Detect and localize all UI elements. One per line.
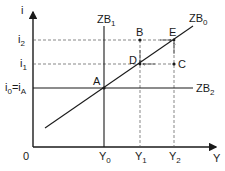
point-e [173,39,176,42]
tick-i0-ia: i0=iA [5,81,27,96]
zb0-curve [45,26,193,128]
label-e: E [169,26,176,38]
is-lm-diagram: i Y 0 i2 i1 i0=iA Y0 Y1 Y2 ZB1 ZB0 ZB2 A… [0,0,225,171]
point-d [139,63,142,66]
tick-i1: i1 [20,57,27,72]
label-d: D [129,54,137,66]
x-axis-label: Y [213,152,221,164]
tick-y2: Y2 [169,150,181,165]
point-c [172,62,175,65]
tick-y0: Y0 [99,150,111,165]
label-a: A [93,75,101,87]
point-b [138,38,141,41]
label-b: B [136,26,143,38]
point-a [102,86,105,89]
label-c: C [178,58,186,70]
label-zb0: ZB0 [189,12,208,27]
origin-label: 0 [23,150,29,162]
label-zb1: ZB1 [97,13,116,28]
y-axis-label: i [21,4,23,16]
label-zb2: ZB2 [196,82,215,97]
tick-y1: Y1 [135,150,147,165]
tick-i2: i2 [18,33,25,48]
